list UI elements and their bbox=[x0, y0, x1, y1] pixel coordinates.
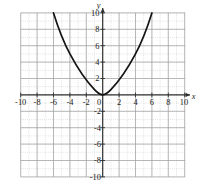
y-axis-label: y bbox=[96, 1, 101, 10]
graph-figure: -10 -8 -6 -4 -2 0 2 4 6 8 10 10 8 6 4 2 … bbox=[0, 0, 202, 186]
x-tick-label: -4 bbox=[66, 98, 74, 107]
y-tick-label: -4 bbox=[94, 124, 102, 133]
x-tick-label: 8 bbox=[166, 98, 170, 107]
cartesian-plot: -10 -8 -6 -4 -2 0 2 4 6 8 10 10 8 6 4 2 … bbox=[0, 0, 202, 186]
y-tick-label: 8 bbox=[95, 25, 99, 34]
y-tick-label: 6 bbox=[95, 42, 99, 51]
y-tick-label: -10 bbox=[90, 173, 101, 182]
x-tick-label: 6 bbox=[150, 98, 154, 107]
x-tick-label-origin: 0 bbox=[97, 98, 101, 107]
x-axis-label: x bbox=[191, 92, 196, 101]
x-tick-label: -10 bbox=[15, 98, 26, 107]
x-tick-label: -6 bbox=[50, 98, 57, 107]
x-tick-label: -2 bbox=[83, 98, 90, 107]
y-tick-label: -8 bbox=[94, 156, 101, 165]
plot-background bbox=[0, 0, 202, 186]
x-tick-label: 10 bbox=[180, 98, 188, 107]
y-tick-label: -6 bbox=[94, 140, 101, 149]
x-tick-label: 2 bbox=[117, 98, 121, 107]
y-tick-label: 2 bbox=[95, 74, 99, 83]
y-tick-label: -2 bbox=[94, 107, 101, 116]
x-tick-label: -8 bbox=[34, 98, 41, 107]
